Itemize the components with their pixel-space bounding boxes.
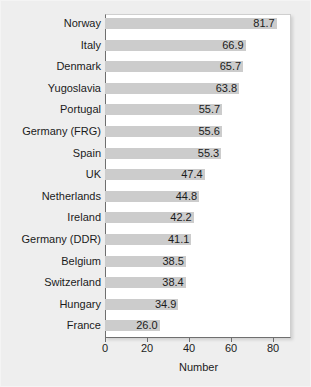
bar-row: 63.8 <box>105 79 291 98</box>
category-label: Netherlands <box>42 187 101 206</box>
bar-value-label: 66.9 <box>218 37 244 54</box>
x-axis-tick-label: 80 <box>267 342 279 354</box>
category-label: Denmark <box>56 57 101 76</box>
bar-value-label: 47.4 <box>177 166 203 183</box>
bar-value-label: 41.1 <box>163 231 189 248</box>
bar-row: 26.0 <box>105 316 291 335</box>
bar-row: 47.4 <box>105 165 291 184</box>
category-label: Yugoslavia <box>48 79 101 98</box>
category-label: Norway <box>64 14 101 33</box>
category-label: Germany (FRG) <box>22 122 101 141</box>
x-axis-tick-label: 60 <box>225 342 237 354</box>
bar-row: 42.2 <box>105 208 291 227</box>
category-label: Switzerland <box>44 273 101 292</box>
bar-row: 34.9 <box>105 295 291 314</box>
bar-value-label: 38.4 <box>158 274 184 291</box>
bar-row: 44.8 <box>105 187 291 206</box>
bar-value-label: 81.7 <box>249 15 275 32</box>
bar-value-label: 34.9 <box>150 296 176 313</box>
category-label: Ireland <box>67 208 101 227</box>
bar-value-label: 55.6 <box>194 123 220 140</box>
category-label: France <box>67 316 101 335</box>
bar-row: 66.9 <box>105 36 291 55</box>
category-label: Portugal <box>60 100 101 119</box>
x-axis-tick-label: 20 <box>141 342 153 354</box>
bar-row: 38.5 <box>105 252 291 271</box>
bar-value-label: 55.7 <box>194 101 220 118</box>
category-label: Hungary <box>59 295 101 314</box>
bar-value-label: 44.8 <box>171 188 197 205</box>
x-axis-title: Number <box>1 361 311 373</box>
bar-row: 38.4 <box>105 273 291 292</box>
bar-value-label: 26.0 <box>132 317 158 334</box>
x-axis-tick-label: 40 <box>183 342 195 354</box>
category-label: Germany (DDR) <box>22 230 101 249</box>
bar-row: 55.3 <box>105 144 291 163</box>
bar-value-label: 42.2 <box>166 209 192 226</box>
bar-row: 55.7 <box>105 100 291 119</box>
bar-row: 65.7 <box>105 57 291 76</box>
bar-row: 55.6 <box>105 122 291 141</box>
x-axis-title-text: Number <box>179 361 218 373</box>
category-label: UK <box>86 165 101 184</box>
bar-row: 41.1 <box>105 230 291 249</box>
bar-row: 81.7 <box>105 14 291 33</box>
bar-value-label: 65.7 <box>215 58 241 75</box>
category-label: Italy <box>81 36 101 55</box>
category-label: Belgium <box>61 252 101 271</box>
x-axis-tick-label: 0 <box>102 342 108 354</box>
bar-value-label: 38.5 <box>158 253 184 270</box>
bar-value-label: 55.3 <box>193 145 219 162</box>
category-label: Spain <box>73 144 101 163</box>
chart-figure: 81.766.965.763.855.755.655.347.444.842.2… <box>0 0 311 387</box>
bar-value-label: 63.8 <box>211 80 237 97</box>
